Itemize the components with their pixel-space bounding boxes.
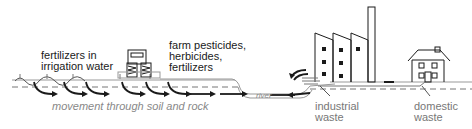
label-industrial: industrial waste [315, 101, 359, 123]
label-river: river [256, 90, 272, 101]
factory [315, 7, 375, 82]
chimney [368, 7, 375, 82]
label-farm-chemicals: farm pesticides, herbicides, fertilizers [169, 40, 246, 73]
irrigation-wave [15, 77, 85, 86]
tractor [118, 50, 160, 78]
label-movement: movement through soil and rock [52, 101, 209, 112]
label-fertilizers-irrigation: fertilizers in irrigation water [41, 50, 113, 72]
label-domestic: domestic waste [414, 101, 458, 123]
house [408, 47, 450, 82]
